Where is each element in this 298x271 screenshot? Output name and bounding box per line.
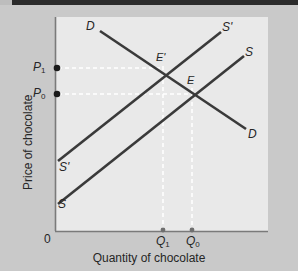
x-axis-title: Quantity of chocolate bbox=[0, 252, 298, 264]
supply-shifted-label-top: S' bbox=[222, 21, 232, 33]
equilibrium-label-e: E bbox=[187, 75, 194, 86]
supply-demand-figure: D D S' S' S S E' E P1 P0 Q1 Q0 0 Quantit… bbox=[0, 0, 298, 271]
origin-label: 0 bbox=[44, 233, 51, 245]
quantity-label-q1-sub: 1 bbox=[165, 240, 169, 249]
quantity-label-q1: Q1 bbox=[156, 235, 170, 247]
quantity-label-q0-sub: 0 bbox=[195, 240, 199, 249]
price-label-p1: P1 bbox=[33, 61, 45, 73]
price-label-p1-sub: 1 bbox=[41, 66, 45, 75]
y-axis-title: Price of chocolate bbox=[22, 95, 34, 190]
quantity-label-q0-base: Q bbox=[186, 234, 195, 248]
quantity-marker-q1 bbox=[161, 228, 166, 233]
demand-curve bbox=[100, 31, 246, 129]
quantity-label-q1-base: Q bbox=[156, 234, 165, 248]
supply-shifted-label-bottom: S' bbox=[59, 161, 69, 173]
supply-curve bbox=[58, 56, 244, 204]
demand-label-bottom: D bbox=[248, 128, 257, 140]
quantity-marker-q0 bbox=[190, 228, 195, 233]
price-label-p1-base: P bbox=[33, 60, 41, 74]
quantity-label-q0: Q0 bbox=[186, 235, 200, 247]
supply-label-bottom: S bbox=[58, 198, 66, 210]
equilibrium-label-e-prime: E' bbox=[156, 52, 165, 63]
demand-label-top: D bbox=[86, 20, 95, 32]
supply-label-top: S bbox=[245, 46, 253, 58]
price-marker-p1 bbox=[54, 65, 61, 72]
price-label-p0-sub: 0 bbox=[41, 92, 45, 101]
price-marker-p0 bbox=[54, 91, 61, 98]
